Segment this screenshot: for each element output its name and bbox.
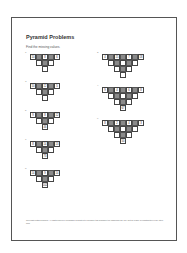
answer-cell[interactable] xyxy=(132,126,138,132)
pyramid-number: 1 xyxy=(25,51,26,54)
top-answer-cell[interactable]: 46 xyxy=(42,124,48,130)
answer-cell[interactable] xyxy=(48,176,54,182)
base-cell[interactable]: 13 xyxy=(54,141,60,147)
base-cell[interactable]: 12 xyxy=(54,112,60,118)
base-cell[interactable]: 8 xyxy=(138,87,144,93)
top-answer-cell[interactable]: 67 xyxy=(120,105,126,111)
top-answer-cell[interactable]: 102 xyxy=(42,182,48,188)
pyramid-number: 4 xyxy=(97,84,98,87)
answer-cell[interactable] xyxy=(132,93,138,99)
top-answer-cell[interactable]: 50 xyxy=(120,138,126,144)
answer-cell[interactable] xyxy=(126,132,132,138)
base-cell[interactable]: 6 xyxy=(54,54,60,60)
page-title: Pyramid Problems xyxy=(26,34,74,40)
answer-cell[interactable] xyxy=(48,118,54,124)
base-cell[interactable]: 18 xyxy=(138,54,144,60)
answer-cell[interactable] xyxy=(126,66,132,72)
top-answer-cell[interactable] xyxy=(42,66,48,72)
instruction-text: Find the missing values. xyxy=(26,45,60,49)
top-answer-cell[interactable] xyxy=(42,95,48,101)
pyramid-number: 6 xyxy=(97,117,98,120)
copyright-footer: Copyright Maths Resource. All rights res… xyxy=(26,219,166,224)
base-cell[interactable]: 14 xyxy=(54,170,60,176)
pyramid-number: 3 xyxy=(25,80,26,83)
answer-cell[interactable] xyxy=(48,89,54,95)
answer-cell[interactable] xyxy=(48,147,54,153)
pyramid-number: 5 xyxy=(25,109,26,112)
answer-cell[interactable] xyxy=(48,60,54,66)
base-cell[interactable]: 5 xyxy=(54,83,60,89)
top-answer-cell[interactable]: 73 xyxy=(42,153,48,159)
base-cell[interactable]: 3 xyxy=(138,120,144,126)
answer-cell[interactable] xyxy=(132,60,138,66)
pyramid-number: 8 xyxy=(25,167,26,170)
pyramid-number: 2 xyxy=(97,51,98,54)
pyramid-number: 7 xyxy=(25,138,26,141)
top-answer-cell[interactable] xyxy=(120,72,126,78)
worksheet-page: Pyramid Problems Find the missing values… xyxy=(11,17,177,241)
answer-cell[interactable] xyxy=(126,99,132,105)
